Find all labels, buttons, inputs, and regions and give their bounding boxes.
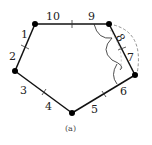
vertex-top-right xyxy=(106,21,112,27)
label-9: 9 xyxy=(88,10,95,23)
label-10: 10 xyxy=(46,10,60,23)
label-2: 2 xyxy=(9,50,16,63)
pentagon-diagram: 10 9 1 2 3 4 5 6 8 7 (a) xyxy=(0,0,152,145)
inner-arcs xyxy=(94,24,122,84)
vertex-bottom xyxy=(69,110,75,116)
arc-mid xyxy=(106,38,112,60)
label-3: 3 xyxy=(20,84,27,97)
label-6: 6 xyxy=(120,85,127,98)
label-5: 5 xyxy=(91,103,98,116)
arc-bottom xyxy=(114,64,118,84)
label-8: 8 xyxy=(113,32,128,45)
vertex-left xyxy=(12,68,18,74)
caption: (a) xyxy=(65,124,76,133)
vertex-right xyxy=(132,72,138,78)
label-7: 7 xyxy=(127,51,134,64)
vertex-top-left xyxy=(32,21,38,27)
label-1: 1 xyxy=(21,28,28,41)
label-4: 4 xyxy=(45,100,52,113)
